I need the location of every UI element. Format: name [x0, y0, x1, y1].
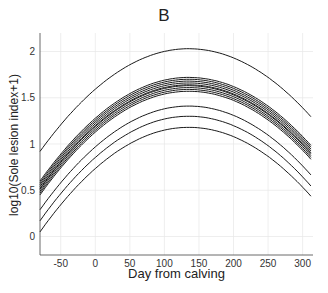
- y-axis-label: log10(Sole lesion index+1): [7, 74, 21, 216]
- data-line: [40, 77, 311, 181]
- data-line: [40, 79, 311, 183]
- chart-title: B: [0, 6, 328, 26]
- y-tick-label: 1.5: [21, 92, 35, 103]
- y-tick-label: 2: [29, 46, 35, 57]
- data-line: [40, 127, 311, 231]
- line-chart: -5005010015020025030000.511.52: [0, 0, 328, 293]
- y-tick-label: 0: [29, 231, 35, 242]
- y-tick-label: 0.5: [21, 185, 35, 196]
- data-line: [40, 81, 311, 185]
- y-tick-label: 1: [29, 139, 35, 150]
- x-axis-label: Day from calving: [40, 266, 313, 281]
- data-line: [40, 89, 311, 193]
